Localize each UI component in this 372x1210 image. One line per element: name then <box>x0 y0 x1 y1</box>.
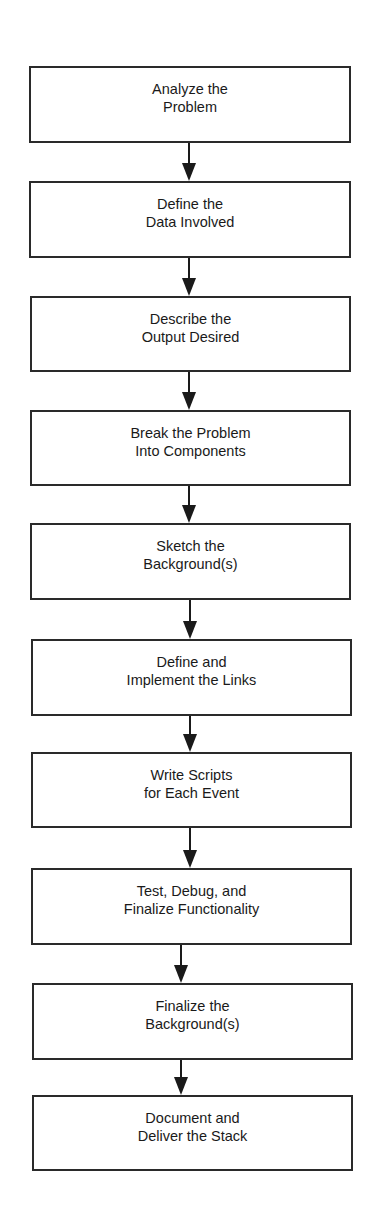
step-9-finalize-backgrounds: Finalize the Background(s) <box>32 983 353 1060</box>
arrow-down-icon <box>182 258 196 296</box>
step-label-line: Background(s) <box>32 555 349 573</box>
step-label-line: Test, Debug, and <box>33 882 350 900</box>
arrow-down-icon <box>182 486 196 523</box>
step-label-line: Write Scripts <box>33 766 350 784</box>
step-label-line: Into Components <box>32 442 349 460</box>
step-label-line: Analyze the <box>31 80 349 98</box>
arrow-down-icon <box>183 600 197 639</box>
step-6-define-links: Define and Implement the Links <box>31 639 352 716</box>
arrow-down-icon <box>183 828 197 868</box>
arrow-down-icon <box>183 716 197 752</box>
step-label-line: Data Involved <box>31 213 349 231</box>
step-label-line: Background(s) <box>34 1015 351 1033</box>
step-1-analyze-problem: Analyze the Problem <box>29 66 351 143</box>
step-7-write-scripts: Write Scripts for Each Event <box>31 752 352 828</box>
step-label-line: Sketch the <box>32 537 349 555</box>
step-label-line: for Each Event <box>33 784 350 802</box>
arrow-down-icon <box>182 143 196 181</box>
step-label-line: Describe the <box>32 310 349 328</box>
arrow-down-icon <box>182 372 196 410</box>
step-label-line: Break the Problem <box>32 424 349 442</box>
step-4-break-into-components: Break the Problem Into Components <box>30 410 351 486</box>
step-label-line: Problem <box>31 98 349 116</box>
arrow-down-icon <box>174 945 188 983</box>
step-label-line: Output Desired <box>32 328 349 346</box>
step-label-line: Define and <box>33 653 350 671</box>
step-label-line: Document and <box>34 1109 351 1127</box>
step-5-sketch-backgrounds: Sketch the Background(s) <box>30 523 351 600</box>
step-label-line: Implement the Links <box>33 671 350 689</box>
step-label-line: Deliver the Stack <box>34 1127 351 1145</box>
step-label-line: Finalize Functionality <box>33 900 350 918</box>
step-8-test-debug-finalize: Test, Debug, and Finalize Functionality <box>31 868 352 945</box>
arrow-down-icon <box>174 1060 188 1095</box>
step-2-define-data: Define the Data Involved <box>29 181 351 258</box>
flowchart: Analyze the Problem Define the Data Invo… <box>0 0 372 1210</box>
step-3-describe-output: Describe the Output Desired <box>30 296 351 372</box>
step-label-line: Define the <box>31 195 349 213</box>
step-label-line: Finalize the <box>34 997 351 1015</box>
step-10-document-deliver: Document and Deliver the Stack <box>32 1095 353 1171</box>
